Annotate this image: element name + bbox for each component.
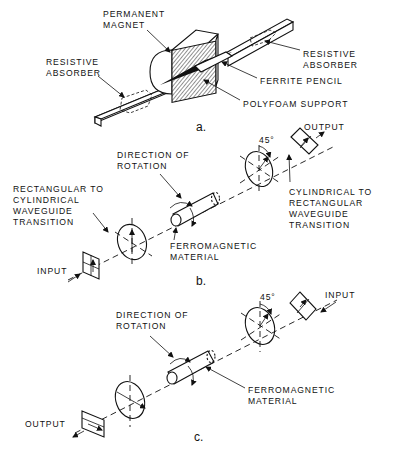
ferrite-isolator-diagram: PERMANENTMAGNET RESISTIVEABSORBER RESIST… xyxy=(0,0,394,452)
circular-transition-left-c xyxy=(110,375,149,427)
label-input-b: INPUT xyxy=(37,266,67,276)
label-permanent-magnet: PERMANENTMAGNET xyxy=(103,9,165,30)
circular-transition-right-b xyxy=(240,145,280,195)
input-waveguide-b xyxy=(83,252,99,279)
label-angle-c: 45° xyxy=(260,292,276,302)
input-waveguide-c xyxy=(290,292,316,320)
panel-b: OUTPUT 45° DIRECTION OFROTATION RECTANGU… xyxy=(13,122,372,288)
label-direction-of-rotation-b: DIRECTION OFROTATION xyxy=(117,150,189,171)
label-ferromagnetic-material-b: FERROMAGNETICMATERIAL xyxy=(170,241,257,262)
caption-c: c. xyxy=(194,430,203,444)
label-cyl-to-rect-transition: CYLINDRICAL TORECTANGULARWAVEGUIDETRANSI… xyxy=(289,187,372,230)
output-waveguide-c xyxy=(82,411,104,437)
panel-c: INPUT 45° DIRECTION OFROTATION FERROMAGN… xyxy=(25,290,355,444)
label-angle-b: 45° xyxy=(259,135,275,145)
label-input-c: INPUT xyxy=(325,290,355,300)
circular-transition-left-b xyxy=(113,218,152,268)
label-rect-to-cyl-transition: RECTANGULAR TOCYLINDRICALWAVEGUIDETRANSI… xyxy=(13,184,104,227)
panel-a: PERMANENTMAGNET RESISTIVEABSORBER RESIST… xyxy=(46,9,358,134)
waveguide-bar-right xyxy=(222,19,293,66)
circular-transition-right-c xyxy=(240,301,282,352)
label-output-c: OUTPUT xyxy=(25,419,66,429)
label-resistive-absorber-right: RESISTIVEABSORBER xyxy=(303,49,358,70)
label-resistive-absorber-left: RESISTIVEABSORBER xyxy=(46,57,101,78)
label-polyfoam-support: POLYFOAM SUPPORT xyxy=(243,99,348,109)
label-output-b: OUTPUT xyxy=(304,122,345,132)
label-ferrite-pencil: FERRITE PENCIL xyxy=(260,76,343,86)
caption-a: a. xyxy=(196,120,206,134)
label-ferromagnetic-material-c: FERROMAGNETICMATERIAL xyxy=(248,385,335,406)
caption-b: b. xyxy=(196,274,206,288)
ferromagnetic-rod-b xyxy=(170,193,220,227)
label-direction-of-rotation-c: DIRECTION OFROTATION xyxy=(116,310,188,331)
